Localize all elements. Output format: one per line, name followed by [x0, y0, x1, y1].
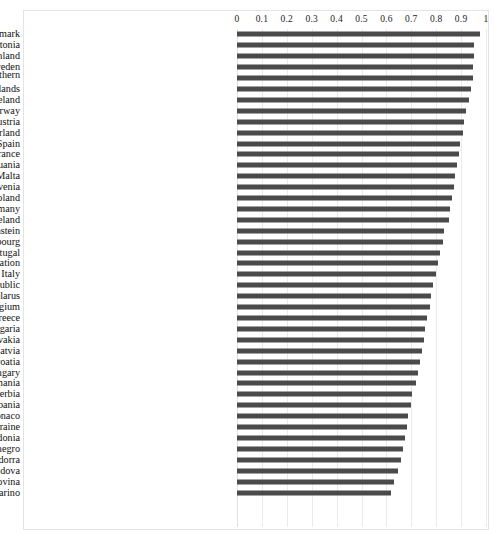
bar-row: Portugal: [24, 247, 484, 258]
bar: [237, 239, 443, 244]
bar: [237, 32, 480, 37]
bar-row: Slovenia: [24, 182, 484, 193]
bar-row: Liechtenstein: [24, 225, 484, 236]
bar: [237, 425, 407, 430]
bar-row: Finland: [24, 51, 484, 62]
bar-row: Germany: [24, 204, 484, 215]
bar: [237, 283, 433, 288]
bar-row: Austria: [24, 116, 484, 127]
bar: [237, 348, 422, 353]
bar: [237, 130, 463, 135]
bar: [237, 65, 473, 70]
bar-chart-figure: 00.10.20.30.40.50.60.70.80.91 DenmarkEst…: [23, 10, 489, 530]
bar: [237, 108, 466, 113]
bar: [237, 435, 405, 440]
bar-row: Greece: [24, 313, 484, 324]
bar-row: Romania: [24, 378, 484, 389]
x-axis-tick-label: 0.1: [256, 14, 268, 24]
gridline: [486, 29, 487, 527]
bar-row: France: [24, 149, 484, 160]
bar-rows: DenmarkEstoniaFinlandSwedenUnited Kingdo…: [24, 29, 484, 527]
bar-row: Denmark: [24, 29, 484, 40]
x-axis-tick-label: 0.4: [330, 14, 342, 24]
bar-row: Poland: [24, 193, 484, 204]
bar-row: Spain: [24, 138, 484, 149]
bar: [237, 54, 474, 59]
bar-row: Bulgaria: [24, 323, 484, 334]
bar: [237, 196, 452, 201]
bar-row: United Kingdom of Great Britain and Nort…: [24, 73, 484, 84]
bar: [237, 119, 464, 124]
bar: [237, 479, 394, 484]
bar-row: Bosnia and Herzegovina: [24, 476, 484, 487]
bar: [237, 446, 403, 451]
bar: [237, 174, 455, 179]
x-axis-tick-label: 1: [484, 14, 489, 24]
bar-row: Czech Republic: [24, 280, 484, 291]
bar: [237, 468, 398, 473]
bar: [237, 97, 469, 102]
x-axis-tick-label: 0.9: [455, 14, 467, 24]
bar-row: Albania: [24, 400, 484, 411]
bar: [237, 272, 436, 277]
bar: [237, 337, 424, 342]
bar-row: Switzerland: [24, 127, 484, 138]
bar-row: Italy: [24, 269, 484, 280]
bar-row: North Macedonia: [24, 433, 484, 444]
x-axis-tick-label: 0.2: [281, 14, 293, 24]
bar: [237, 414, 408, 419]
bar-row: Sweden: [24, 62, 484, 73]
bar-row: Iceland: [24, 94, 484, 105]
bar: [237, 141, 460, 146]
bar-row: Republic of Moldova: [24, 465, 484, 476]
bar: [237, 381, 416, 386]
bar: [237, 359, 420, 364]
bar: [237, 43, 474, 48]
bar: [237, 457, 401, 462]
x-axis-tick-label: 0.7: [405, 14, 417, 24]
bar: [237, 316, 427, 321]
bar-row: San Marino: [24, 487, 484, 498]
bar-row-label: San Marino: [0, 487, 20, 498]
bar-row: Ukraine: [24, 422, 484, 433]
bar-row: Croatia: [24, 356, 484, 367]
bar: [237, 152, 459, 157]
bar-row: Latvia: [24, 345, 484, 356]
x-axis-tick-label: 0.3: [305, 14, 317, 24]
bar-row: Belgium: [24, 302, 484, 313]
bar: [237, 294, 431, 299]
bar-row: Estonia: [24, 40, 484, 51]
bar: [237, 305, 430, 310]
bar-row: Netherlands: [24, 84, 484, 95]
bar-row: Montenegro: [24, 443, 484, 454]
bar-row: Slovakia: [24, 334, 484, 345]
bar-row: Serbia: [24, 389, 484, 400]
bar-row: Andorra: [24, 454, 484, 465]
bar: [237, 206, 450, 211]
bar: [237, 326, 425, 331]
bar-row: Monaco: [24, 411, 484, 422]
x-axis-tick-label: 0: [235, 14, 240, 24]
bar: [237, 185, 454, 190]
bar: [237, 370, 418, 375]
bar: [237, 261, 438, 266]
bar-row: Lithuania: [24, 160, 484, 171]
bar: [237, 490, 391, 495]
bar-row: Russian Federation: [24, 258, 484, 269]
bar-row: Hungary: [24, 367, 484, 378]
bar-row: Belarus: [24, 291, 484, 302]
bar: [237, 217, 449, 222]
bar: [237, 392, 412, 397]
bar: [237, 86, 471, 91]
bar: [237, 250, 440, 255]
bar: [237, 228, 444, 233]
x-axis-tick-label: 0.6: [380, 14, 392, 24]
bar-row: Luxembourg: [24, 236, 484, 247]
x-axis-tick-label: 0.8: [430, 14, 442, 24]
bar-row: Norway: [24, 105, 484, 116]
x-axis-ticks: 00.10.20.30.40.50.60.70.80.91: [24, 11, 488, 29]
bar-row: Ireland: [24, 214, 484, 225]
bar-row: Malta: [24, 171, 484, 182]
bar: [237, 163, 457, 168]
bar: [237, 403, 411, 408]
